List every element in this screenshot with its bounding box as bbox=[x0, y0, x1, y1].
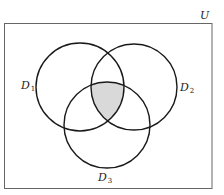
universe-label-text: U bbox=[200, 9, 209, 22]
set-label-d2-name: D bbox=[180, 81, 189, 94]
set-label-d3-name: D bbox=[98, 171, 107, 184]
venn-diagram bbox=[0, 0, 224, 195]
set-label-d3-subscript: 3 bbox=[108, 177, 112, 185]
set-label-d3: D3 bbox=[98, 172, 112, 185]
set-label-d1-name: D bbox=[21, 79, 30, 92]
set-label-d1: D1 bbox=[21, 80, 35, 93]
set-label-d2-subscript: 2 bbox=[190, 87, 194, 95]
set-label-d2: D2 bbox=[180, 82, 194, 95]
universe-label: U bbox=[200, 10, 209, 21]
set-label-d1-subscript: 1 bbox=[31, 85, 35, 93]
